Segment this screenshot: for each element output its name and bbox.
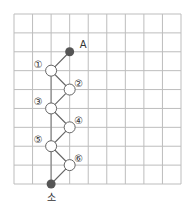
node-3-label: ③ <box>34 96 43 107</box>
node-2-label: ② <box>74 78 83 89</box>
point-a-label: A <box>80 39 87 50</box>
node-4-label: ④ <box>74 115 83 126</box>
grid-path-diagram: ①②③④⑤⑥ A 소 <box>0 0 188 207</box>
node-1-circle <box>46 65 57 76</box>
node-6-label: ⑥ <box>74 153 83 164</box>
node-3-circle <box>46 103 57 114</box>
end-point-label: 소 <box>47 192 56 203</box>
node-5-circle <box>46 141 57 152</box>
point-a-marker <box>65 47 74 56</box>
end-point-marker <box>47 180 56 189</box>
node-1-label: ① <box>34 59 43 70</box>
node-5-label: ⑤ <box>34 134 43 145</box>
